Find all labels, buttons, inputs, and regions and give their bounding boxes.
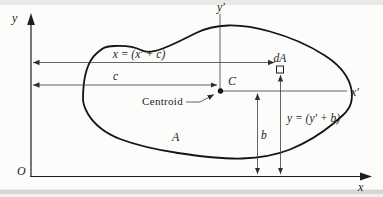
y-axis-label: y — [11, 11, 18, 25]
y-axis-arrowhead-icon — [27, 13, 35, 25]
centroid-leader-arrow — [186, 95, 214, 103]
dim-y-label: y = (y′ + b) — [286, 112, 340, 125]
figure-canvas: y x O y′ x′ x = (x′ + c) c b y — [0, 0, 383, 197]
centroidal-axes: y′ x′ — [216, 0, 359, 99]
dim-b-label: b — [261, 129, 267, 141]
scan-edge-bottom — [0, 190, 383, 195]
dimension-x-total: x = (x′ + c) — [33, 48, 275, 63]
x-prime-axis-label: x′ — [350, 85, 359, 99]
centroid-point-dot — [218, 88, 223, 93]
dimension-b: b — [258, 94, 268, 175]
centroid: C Centroid — [142, 74, 237, 107]
x-axis-label: x — [357, 180, 364, 194]
area-element: dA — [274, 52, 288, 73]
scan-edge-top — [0, 0, 383, 5]
dim-c-label: c — [113, 70, 118, 82]
origin-label: O — [17, 164, 26, 178]
centroid-caption: Centroid — [142, 95, 183, 107]
area-label: A — [171, 130, 180, 144]
dimension-c: c — [33, 70, 217, 86]
dA-label: dA — [274, 52, 288, 64]
dim-x-label: x = (x′ + c) — [112, 48, 166, 61]
centroid-diagram: y x O y′ x′ x = (x′ + c) c b y — [0, 0, 383, 197]
area-boundary — [83, 25, 352, 158]
y-prime-axis-label: y′ — [216, 0, 225, 14]
centroid-point-label: C — [228, 74, 237, 88]
dA-element-square — [277, 66, 284, 73]
scan-edge-bottom-light — [0, 194, 383, 197]
